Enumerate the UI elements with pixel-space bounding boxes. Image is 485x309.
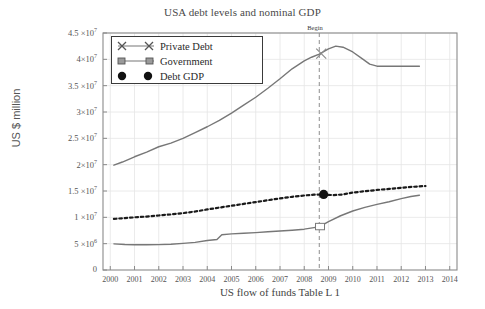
legend-item-debt-gdp: Debt GDP: [116, 68, 204, 84]
legend-label-government: Government: [160, 56, 213, 67]
chart-figure: USA debt levels and nominal GDP US $ mil…: [0, 0, 485, 309]
legend-label-debt-gdp: Debt GDP: [160, 71, 204, 82]
legend-item-government: Government: [116, 53, 213, 69]
legend-label-private-debt: Private Debt: [160, 41, 213, 52]
circle-marker-icon: [116, 69, 156, 83]
legend-item-private-debt: Private Debt: [116, 38, 213, 54]
x-marker-icon: [116, 39, 156, 53]
x-axis-label: US flow of funds Table L 1: [103, 286, 457, 298]
begin-annotation-label: Begin: [307, 24, 323, 31]
square-marker-icon: [116, 54, 156, 68]
chart-legend: Private Debt Government Debt GDP: [111, 36, 263, 84]
